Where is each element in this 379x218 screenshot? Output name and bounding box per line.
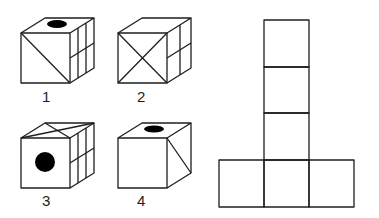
- net-square-1: [264, 20, 309, 67]
- cube-label-1: 1: [42, 88, 50, 105]
- net-square-3: [264, 113, 309, 160]
- oval-mark: [144, 126, 164, 133]
- net-square-2: [264, 67, 309, 113]
- cube-4: 4: [118, 123, 191, 209]
- cube-label-4: 4: [137, 192, 145, 209]
- cube-label-2: 2: [137, 88, 145, 105]
- cube-net: [219, 20, 354, 207]
- net-square-4: [219, 160, 264, 207]
- cube-label-3: 3: [42, 192, 50, 209]
- cube-puzzle-figure: 1 2 3 4: [0, 0, 379, 218]
- oval-mark: [47, 20, 67, 28]
- cube-1: 1: [21, 18, 94, 105]
- cube-2: 2: [118, 18, 191, 105]
- circle-mark: [35, 152, 55, 172]
- net-square-5: [264, 160, 309, 207]
- net-square-6: [309, 160, 354, 207]
- cube-3: 3: [21, 123, 94, 209]
